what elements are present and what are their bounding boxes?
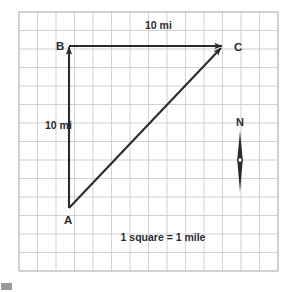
scale-caption: 1 square = 1 mile: [121, 231, 206, 243]
compass-north-label: N: [236, 116, 244, 128]
corner-artifact-mark: [1, 283, 12, 290]
magnitude-label-a-to-b: 10 mi: [45, 119, 72, 131]
compass-pivot-icon: [238, 158, 243, 163]
vector-diagram-figure: ABC10 mi10 miN1 square = 1 mile: [0, 0, 292, 292]
magnitude-label-b-to-c: 10 mi: [145, 19, 172, 31]
vector-arrows: [69, 46, 222, 208]
compass-needle-north: [237, 131, 242, 158]
compass-needle-south: [237, 162, 242, 192]
point-label-c: C: [234, 41, 242, 53]
compass-rose: [237, 131, 242, 192]
diagram-canvas: ABC10 mi10 miN1 square = 1 mile: [0, 0, 292, 292]
point-label-a: A: [64, 214, 72, 226]
point-label-b: B: [56, 40, 64, 52]
vector-a-to-c: [69, 48, 221, 208]
